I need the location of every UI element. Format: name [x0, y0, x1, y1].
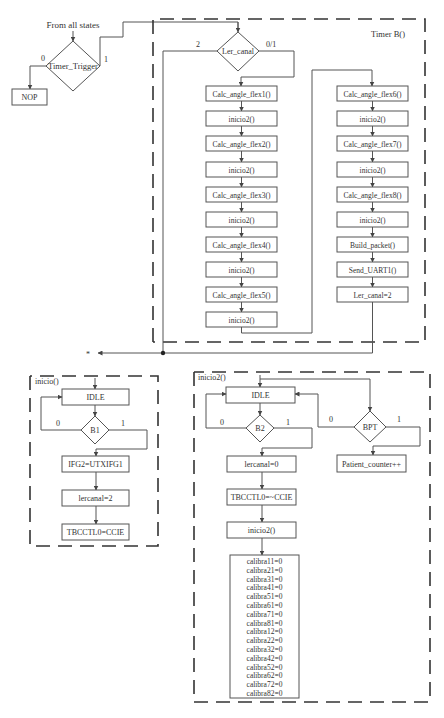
svg-text:inicio2(): inicio2()	[360, 166, 386, 175]
svg-text:TBCCTL0=~CCIE: TBCCTL0=~CCIE	[231, 493, 293, 502]
svg-text:Patient_counter++: Patient_counter++	[342, 460, 402, 469]
ler-canal-branch-01: 0/1	[266, 40, 276, 49]
svg-text:calibra51=0: calibra51=0	[247, 592, 283, 601]
svg-text:calibra52=0: calibra52=0	[247, 663, 283, 672]
nop-label: NOP	[21, 93, 38, 102]
svg-text:0: 0	[56, 419, 60, 428]
timer-trigger-section: From all states Timer_Trigger 0 1 NOP	[12, 20, 238, 105]
svg-text:inicio2(): inicio2()	[360, 216, 386, 225]
timer-b-section: Timer B() Ler_canal 2 0/1 Calc_angle_fle…	[86, 19, 425, 359]
svg-text:calibra81=0: calibra81=0	[247, 619, 283, 628]
timer-b-left-column: Calc_angle_flex1() inicio2() Calc_angle_…	[206, 86, 277, 327]
svg-text:Ler_canal=2: Ler_canal=2	[354, 291, 392, 300]
svg-text:B2: B2	[255, 424, 264, 433]
svg-text:1: 1	[121, 419, 125, 428]
svg-text:inicio2(): inicio2()	[229, 216, 255, 225]
svg-text:Build_packet(): Build_packet()	[350, 241, 395, 250]
svg-text:calibra71=0: calibra71=0	[247, 610, 283, 619]
inicio-title: inicio()	[35, 377, 59, 386]
svg-text:calibra11=0: calibra11=0	[247, 557, 283, 566]
timer-trigger-branch-0: 0	[41, 54, 45, 63]
svg-text:Calc_angle_flex5(): Calc_angle_flex5()	[213, 291, 271, 300]
svg-text:calibra21=0: calibra21=0	[247, 566, 283, 575]
inicio2-section: inicio2() IDLE B2 0 1 BPT 0 1 Patient_co…	[194, 372, 430, 702]
svg-text:calibra12=0: calibra12=0	[247, 627, 283, 636]
junction-dot	[161, 351, 165, 355]
svg-text:TBCCTL0=CCIE: TBCCTL0=CCIE	[67, 528, 125, 537]
svg-text:inicio2(): inicio2()	[360, 115, 386, 124]
svg-text:calibra61=0: calibra61=0	[247, 601, 283, 610]
flowchart: From all states Timer_Trigger 0 1 NOP Ti…	[0, 0, 444, 718]
svg-text:IDLE: IDLE	[86, 393, 104, 402]
svg-text:calibra82=0: calibra82=0	[247, 689, 283, 698]
trigger-to-timerb-connector	[100, 22, 238, 66]
svg-text:inicio2(): inicio2()	[229, 316, 255, 325]
svg-text:calibra41=0: calibra41=0	[247, 583, 283, 592]
svg-text:Calc_angle_flex4(): Calc_angle_flex4()	[213, 241, 271, 250]
svg-text:calibra31=0: calibra31=0	[247, 575, 283, 584]
calibra-list: calibra11=0 calibra21=0 calibra31=0 cali…	[247, 557, 283, 698]
svg-text:Calc_angle_flex2(): Calc_angle_flex2()	[213, 140, 271, 149]
svg-text:Calc_angle_flex1(): Calc_angle_flex1()	[213, 90, 271, 99]
svg-text:inicio2(): inicio2()	[229, 266, 255, 275]
svg-text:1: 1	[397, 415, 401, 424]
return-marker: *	[86, 350, 90, 359]
svg-text:calibra22=0: calibra22=0	[247, 636, 283, 645]
timer-trigger-branch-1: 1	[104, 55, 108, 64]
timer-b-title: Timer B()	[371, 29, 405, 39]
svg-text:Calc_angle_flex7(): Calc_angle_flex7()	[344, 140, 402, 149]
inicio2-title: inicio2()	[198, 373, 226, 382]
inicio-section: inicio() IDLE B1 0 1 IFG2=UTXIFG1 lercan…	[30, 376, 158, 546]
svg-text:inicio2(): inicio2()	[229, 115, 255, 124]
svg-text:calibra72=0: calibra72=0	[247, 680, 283, 689]
svg-text:inicio2(): inicio2()	[248, 526, 276, 535]
svg-text:0: 0	[220, 418, 224, 427]
svg-text:0: 0	[329, 415, 333, 424]
svg-text:inicio2(): inicio2()	[229, 166, 255, 175]
svg-text:Calc_angle_flex3(): Calc_angle_flex3()	[213, 191, 271, 200]
svg-text:lercanal=2: lercanal=2	[79, 494, 113, 503]
svg-text:Calc_angle_flex6(): Calc_angle_flex6()	[344, 90, 402, 99]
timer-trigger-label: Timer_Trigger	[48, 61, 98, 71]
svg-text:B1: B1	[90, 426, 99, 435]
svg-text:calibra42=0: calibra42=0	[247, 654, 283, 663]
svg-text:calibra32=0: calibra32=0	[247, 645, 283, 654]
svg-text:1: 1	[286, 418, 290, 427]
ler-canal-branch-2: 2	[196, 40, 200, 49]
svg-text:IDLE: IDLE	[251, 391, 269, 400]
entry-label: From all states	[47, 20, 100, 30]
svg-text:BPT: BPT	[363, 423, 378, 432]
svg-text:lercanal=0: lercanal=0	[245, 460, 279, 469]
svg-text:IFG2=UTXIFG1: IFG2=UTXIFG1	[68, 460, 123, 469]
svg-text:calibra62=0: calibra62=0	[247, 671, 283, 680]
ler-canal-label: Ler_canal	[222, 47, 255, 56]
svg-text:Calc_angle_flex8(): Calc_angle_flex8()	[344, 191, 402, 200]
svg-text:Send_UART1(): Send_UART1()	[349, 266, 397, 275]
timer-b-right-column: Calc_angle_flex6() inicio2() Calc_angle_…	[337, 86, 408, 302]
